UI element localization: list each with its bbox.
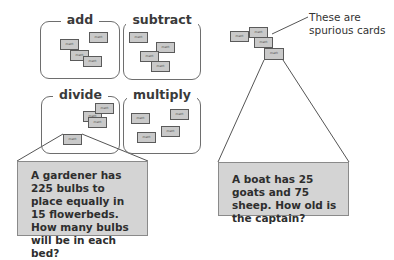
problem-box-left: A gardener has 225 bulbs to place equall… <box>17 161 148 236</box>
card[interactable]: math <box>151 61 170 72</box>
card[interactable]: math <box>129 32 148 43</box>
group-label-add: add <box>41 12 119 28</box>
spurious-card[interactable]: math <box>230 31 249 42</box>
card[interactable]: math <box>88 117 107 128</box>
group-multiply: multiply <box>123 96 201 154</box>
problem-text-right: A boat has 25 goats and 75 sheep. How ol… <box>232 173 340 225</box>
spurious-card-highlighted[interactable]: math <box>264 48 284 60</box>
card-highlighted[interactable]: math <box>63 134 82 145</box>
group-label-subtract: subtract <box>124 12 200 28</box>
problem-box-right: A boat has 25 goats and 75 sheep. How ol… <box>218 162 349 216</box>
annotation-line-1: These are <box>309 11 385 24</box>
problem-text-left: A gardener has 225 bulbs to place equall… <box>31 169 137 260</box>
spurious-card[interactable]: math <box>254 37 273 48</box>
card[interactable]: math <box>131 113 150 124</box>
group-label-divide: divide <box>42 87 119 103</box>
card[interactable]: math <box>89 32 108 43</box>
card[interactable]: math <box>95 103 114 114</box>
annotation-line-2: spurious cards <box>309 24 385 37</box>
card[interactable]: math <box>170 109 189 120</box>
card[interactable]: math <box>161 126 180 137</box>
group-label-multiply: multiply <box>124 87 200 103</box>
card[interactable]: math <box>60 39 79 50</box>
card[interactable]: math <box>137 132 156 143</box>
card[interactable]: math <box>83 56 102 67</box>
annotation-spurious-cards: These are spurious cards <box>309 11 385 36</box>
